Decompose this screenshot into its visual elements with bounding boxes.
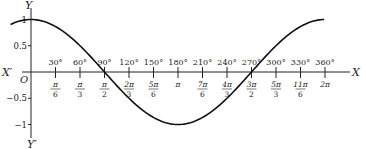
x-axis-label: X: [351, 66, 361, 79]
x-tick-rad-num: 3π: [247, 80, 258, 89]
x-tick-rad-num: 2π: [319, 80, 331, 89]
x-tick-rad-num: π: [101, 80, 108, 89]
x-tick-deg-label: 360°: [315, 58, 334, 67]
x-tick-deg-label: 330°: [291, 58, 310, 67]
x-tick-deg-label: 240°: [217, 58, 236, 67]
y-tick-label: −0.5: [6, 93, 27, 103]
x-tick-deg-label: 120°: [119, 58, 138, 67]
x-tick-rad-den: 3: [78, 90, 83, 99]
x-neg-axis-label: X′: [1, 66, 13, 79]
x-tick-rad-den: 6: [298, 90, 303, 99]
x-tick-rad-num: π: [77, 80, 84, 89]
x-tick-deg-label: 150°: [144, 58, 163, 67]
x-tick-deg-label: 300°: [266, 58, 285, 67]
x-tick-rad-den: 6: [53, 90, 58, 99]
x-tick-rad-den: 6: [200, 90, 205, 99]
x-tick-deg-label: 210°: [193, 58, 212, 67]
y-axis-label: Y: [25, 0, 34, 12]
x-tick-rad-num: 5π: [149, 80, 160, 89]
x-tick-rad-den: 3: [274, 90, 279, 99]
x-tick-rad-num: 5π: [271, 80, 282, 89]
cosine-chart: YY′X′XO 10.5−0.5−130°π660°π390°π2120°2π3…: [0, 0, 366, 149]
y-neg-axis-label: Y′: [27, 138, 37, 149]
y-tick-label: −1: [14, 120, 27, 130]
x-tick-rad-num: 2π: [123, 80, 135, 89]
x-tick-rad-num: 7π: [198, 80, 209, 89]
x-tick-rad-den: 6: [151, 90, 156, 99]
y-tick-label: 0.5: [13, 41, 27, 51]
x-tick-rad-num: π: [175, 80, 182, 89]
x-tick-rad-num: 4π: [221, 80, 233, 89]
x-tick-deg-label: 60°: [73, 58, 87, 67]
x-tick-rad-num: π: [52, 80, 59, 89]
x-tick-deg-label: 180°: [168, 58, 187, 67]
x-tick-rad-num: 11π: [293, 80, 309, 89]
x-tick-deg-label: 30°: [48, 58, 62, 67]
x-tick-rad-den: 2: [249, 90, 254, 99]
origin-label: O: [20, 74, 28, 85]
x-tick-rad-den: 2: [102, 90, 107, 99]
